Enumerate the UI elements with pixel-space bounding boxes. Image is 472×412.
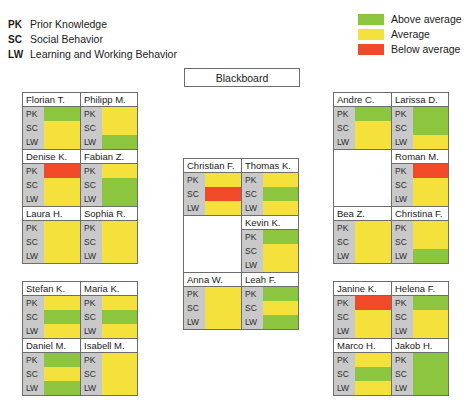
rating-fill-average bbox=[44, 324, 80, 338]
rating-abbr: SC bbox=[392, 310, 413, 324]
seat-card[interactable]: Stefan K.PKSCLW bbox=[23, 282, 80, 338]
desk-row: Bea Z.PKSCLWChristina F.PKSCLW bbox=[334, 206, 448, 263]
seat-card[interactable]: Bea Z.PKSCLW bbox=[334, 207, 391, 263]
rating-bars: PKSCLW bbox=[81, 164, 137, 206]
seat-card[interactable]: Philipp M.PKSCLW bbox=[80, 93, 137, 149]
rating-row-lw: LW bbox=[23, 381, 80, 395]
student-name: Jakob H. bbox=[392, 339, 448, 353]
rating-bars: PKSCLW bbox=[392, 296, 448, 338]
rating-abbr: LW bbox=[23, 324, 44, 338]
seat-card[interactable]: Kevin K.PKSCLW bbox=[241, 216, 298, 272]
seat-card[interactable]: Daniel M.PKSCLW bbox=[23, 339, 80, 395]
rating-fill-average bbox=[102, 121, 137, 135]
student-name: Thomas K. bbox=[242, 159, 298, 173]
rating-abbr: PK bbox=[242, 287, 263, 301]
rating-bars: PKSCLW bbox=[184, 287, 241, 329]
rating-abbr: PK bbox=[334, 353, 355, 367]
rating-fill-above bbox=[263, 315, 298, 329]
student-name: Florian T. bbox=[23, 93, 80, 107]
rating-fill-average bbox=[413, 178, 448, 192]
seat-empty bbox=[334, 150, 391, 206]
rating-row-sc: SC bbox=[392, 235, 448, 249]
student-name: Kevin K. bbox=[242, 216, 298, 230]
rating-fill-above bbox=[413, 296, 448, 310]
rating-fill-average bbox=[102, 221, 137, 235]
seat-card[interactable]: Christian F.PKSCLW bbox=[184, 159, 241, 215]
rating-abbr: PK bbox=[23, 107, 44, 121]
rating-bars: PKSCLW bbox=[81, 107, 137, 149]
seat-card[interactable]: Denise K.PKSCLW bbox=[23, 150, 80, 206]
seat-card[interactable]: Helena F.PKSCLW bbox=[391, 282, 448, 338]
rating-row-sc: SC bbox=[392, 121, 448, 135]
rating-fill-above bbox=[44, 353, 80, 367]
seat-card[interactable]: Marco H.PKSCLW bbox=[334, 339, 391, 395]
rating-row-empty bbox=[334, 164, 391, 178]
rating-fill-below bbox=[205, 187, 241, 201]
rating-row-lw: LW bbox=[392, 135, 448, 149]
rating-fill-average bbox=[355, 324, 391, 338]
seat-group-right-back: Janine K.PKSCLWHelena F.PKSCLWMarco H.PK… bbox=[333, 281, 449, 396]
rating-row-lw: LW bbox=[184, 315, 241, 329]
rating-fill-average bbox=[102, 249, 137, 263]
seat-group-left-front: Florian T.PKSCLWPhilipp M.PKSCLWDenise K… bbox=[22, 92, 138, 264]
student-name: Marco H. bbox=[334, 339, 391, 353]
seat-card[interactable]: Florian T.PKSCLW bbox=[23, 93, 80, 149]
seat-card[interactable]: Laura H.PKSCLW bbox=[23, 207, 80, 263]
rating-fill-average bbox=[102, 367, 137, 381]
rating-fill-average bbox=[205, 173, 241, 187]
rating-abbr: PK bbox=[23, 296, 44, 310]
seat-card[interactable]: Fabian Z.PKSCLW bbox=[80, 150, 137, 206]
seat-card[interactable]: Larissa D.PKSCLW bbox=[391, 93, 448, 149]
rating-row-sc: SC bbox=[242, 301, 298, 315]
rating-fill-average bbox=[102, 324, 137, 338]
rating-fill-average bbox=[263, 301, 298, 315]
desk-row: Stefan K.PKSCLWMaria K.PKSCLW bbox=[23, 282, 137, 338]
rating-fill-average bbox=[102, 381, 137, 395]
rating-fill-average bbox=[413, 135, 448, 149]
seat-card[interactable]: Sophia R.PKSCLW bbox=[80, 207, 137, 263]
rating-abbr: PK bbox=[242, 230, 263, 244]
rating-fill-above bbox=[355, 107, 391, 121]
legend-swatch-average bbox=[358, 29, 384, 40]
rating-row-pk: PK bbox=[334, 221, 391, 235]
rating-row-sc: SC bbox=[81, 310, 137, 324]
seat-card[interactable]: Leah F.PKSCLW bbox=[241, 273, 298, 329]
rating-row-pk: PK bbox=[23, 221, 80, 235]
seat-card[interactable]: Thomas K.PKSCLW bbox=[241, 159, 298, 215]
rating-abbr: PK bbox=[23, 353, 44, 367]
seat-card[interactable]: Jakob H.PKSCLW bbox=[391, 339, 448, 395]
rating-row-lw: LW bbox=[23, 249, 80, 263]
rating-abbr: LW bbox=[81, 381, 102, 395]
rating-fill-average bbox=[205, 315, 241, 329]
seat-card[interactable]: Christina F.PKSCLW bbox=[391, 207, 448, 263]
rating-row-lw: LW bbox=[81, 192, 137, 206]
rating-abbr: PK bbox=[392, 164, 413, 178]
rating-fill-above bbox=[413, 381, 448, 395]
student-name: Helena F. bbox=[392, 282, 448, 296]
criteria-label: Prior Knowledge bbox=[30, 18, 107, 30]
seat-card[interactable]: Roman M.PKSCLW bbox=[391, 150, 448, 206]
seat-card[interactable]: Maria K.PKSCLW bbox=[80, 282, 137, 338]
rating-row-empty bbox=[334, 192, 391, 206]
rating-abbr: SC bbox=[242, 187, 263, 201]
criteria-label: Social Behavior bbox=[30, 33, 103, 45]
rating-abbr: PK bbox=[81, 296, 102, 310]
rating-row-sc: SC bbox=[23, 310, 80, 324]
rating-row-sc: SC bbox=[81, 235, 137, 249]
rating-abbr: LW bbox=[184, 201, 205, 215]
seat-card[interactable]: Isabell M.PKSCLW bbox=[80, 339, 137, 395]
rating-row-lw: LW bbox=[392, 249, 448, 263]
seat-card[interactable]: Anna W.PKSCLW bbox=[184, 273, 241, 329]
rating-row-sc: SC bbox=[81, 121, 137, 135]
rating-row-sc: SC bbox=[392, 178, 448, 192]
seat-card[interactable]: Andre C.PKSCLW bbox=[334, 93, 391, 149]
rating-row-lw: LW bbox=[81, 324, 137, 338]
seat-card[interactable]: Janine K.PKSCLW bbox=[334, 282, 391, 338]
legend-label: Below average bbox=[391, 43, 460, 55]
rating-abbr: LW bbox=[81, 135, 102, 149]
desk-row: Florian T.PKSCLWPhilipp M.PKSCLW bbox=[23, 93, 137, 149]
student-name: Christian F. bbox=[184, 159, 241, 173]
rating-row-lw: LW bbox=[242, 315, 298, 329]
rating-fill-above bbox=[44, 310, 80, 324]
rating-row-lw: LW bbox=[392, 192, 448, 206]
